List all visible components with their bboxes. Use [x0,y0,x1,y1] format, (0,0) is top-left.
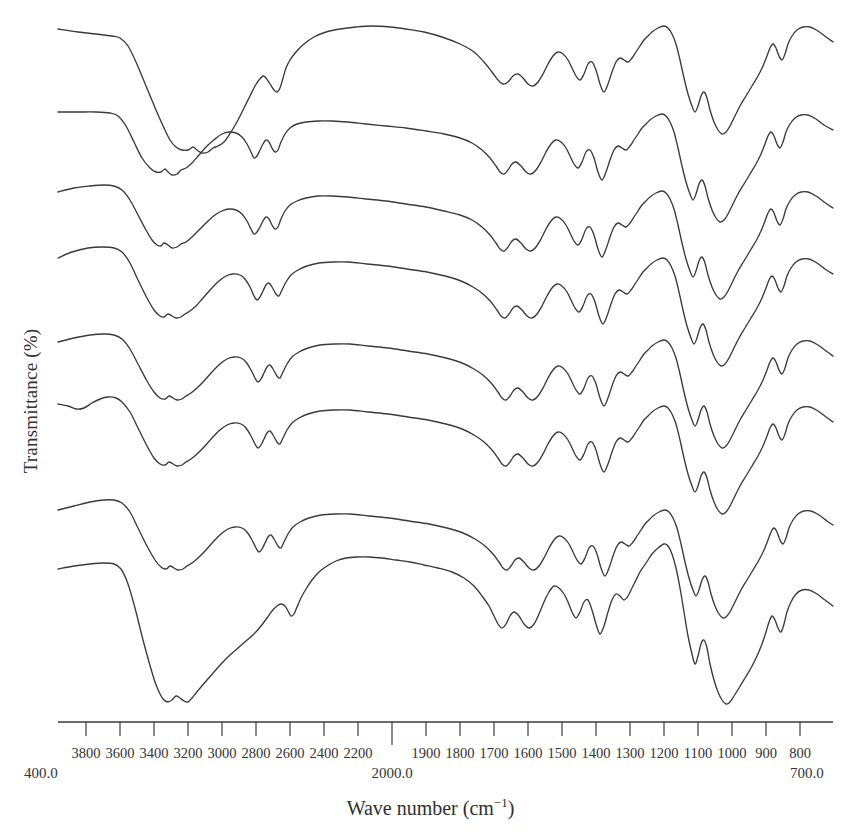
x-axis-tick-label-1400: 1400 [582,745,611,762]
x-axis-tick-label-3000: 3000 [208,745,237,762]
x-axis-title-text: Wave number (cm [347,797,494,819]
x-axis-tick-label-1300: 1300 [616,745,645,762]
x-axis-title-tail: ) [508,797,515,819]
y-axis-title-wrap: Transmittance (%) [14,254,48,554]
x-axis-tick-label-1700: 1700 [480,745,509,762]
x-axis-tick-label-2400: 2400 [310,745,339,762]
x-axis-tick-label-3600: 3600 [106,745,135,762]
x-axis-tick-label-3800: 3800 [72,745,101,762]
x-axis-tick-label-2800: 2800 [242,745,271,762]
x-axis-tick-label-1900: 1900 [412,745,441,762]
x-axis-group [58,722,833,745]
x-axis-tick-label-1600: 1600 [514,745,543,762]
x-axis-tick-label-3200: 3200 [174,745,203,762]
x-axis-tick-label-2200: 2200 [344,745,373,762]
x-axis-right-endpoint-label: 700.0 [790,765,824,782]
x-axis-tick-label-1100: 1100 [684,745,712,762]
ftir-spectra-plot [0,0,861,832]
x-axis-left-endpoint-label: 400.0 [24,765,58,782]
spectrum-curve-4 [58,247,833,366]
x-axis-tick-label-1200: 1200 [650,745,679,762]
x-axis-tick-label-3400: 3400 [140,745,169,762]
spectrum-curve-5 [58,334,833,448]
figure-root: Transmittance (%) 3800360034003200300028… [0,0,861,832]
x-axis-tick-labels: 3800360034003200300028002600240022001900… [0,745,861,767]
spectrum-curve-6 [58,397,833,514]
x-axis-title-exponent: −1 [494,795,508,810]
x-axis-tick-label-1000: 1000 [718,745,747,762]
spectrum-curve-3 [58,185,833,299]
x-axis-tick-label-2600: 2600 [276,745,305,762]
x-axis-tick-label-800: 800 [789,745,811,762]
y-axis-title: Transmittance (%) [20,251,42,551]
x-axis-tick-label-1500: 1500 [548,745,577,762]
x-axis-tick-label-900: 900 [755,745,777,762]
x-axis-tick-label-1800: 1800 [446,745,475,762]
spectrum-curve-7 [58,500,833,618]
x-axis-title: Wave number (cm−1) [0,795,861,820]
x-axis-mid-label: 2000.0 [371,765,412,782]
spectra-curves [58,26,833,704]
